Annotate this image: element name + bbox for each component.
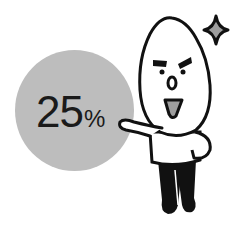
- legs: [158, 160, 196, 214]
- right-eye-icon: [181, 70, 186, 75]
- nose-icon: [168, 77, 176, 89]
- hip-arm: [192, 132, 210, 158]
- sparkle-icon: [204, 16, 228, 44]
- left-eye-icon: [160, 70, 165, 75]
- left-eyebrow-icon: [153, 60, 167, 67]
- illustration: 25%: [0, 0, 245, 233]
- rice-character: [0, 0, 245, 233]
